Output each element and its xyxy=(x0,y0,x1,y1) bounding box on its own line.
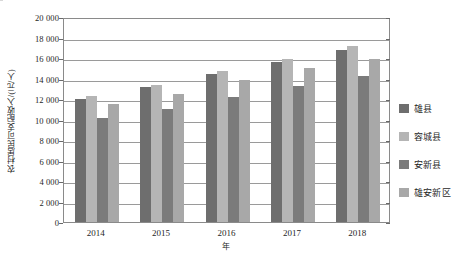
bar xyxy=(293,86,304,222)
bar xyxy=(239,80,250,222)
bar xyxy=(271,62,282,222)
y-tick-mark xyxy=(59,80,63,81)
scan-edge-mark xyxy=(0,0,3,1)
y-tick-mark xyxy=(386,162,390,163)
bar xyxy=(217,71,228,222)
y-tick-mark xyxy=(59,59,63,60)
legend-label: 雄县 xyxy=(414,102,432,115)
y-tick-mark xyxy=(59,141,63,142)
y-tick-mark xyxy=(59,121,63,122)
bar xyxy=(162,109,173,222)
legend-swatch-icon xyxy=(399,132,409,141)
legend-item[interactable]: 安新县 xyxy=(399,150,473,178)
legend-label: 安新县 xyxy=(414,158,442,171)
bar xyxy=(358,76,369,222)
legend-swatch-icon xyxy=(399,104,409,113)
y-tick-mark xyxy=(386,18,390,19)
x-tick-label: 2016 xyxy=(218,228,236,238)
bar xyxy=(369,59,380,222)
bar xyxy=(228,97,239,222)
legend-swatch-icon xyxy=(399,188,409,197)
legend-item[interactable]: 雄县 xyxy=(399,94,473,122)
chart-figure: 农村居民可支配收入/(元/人) 02 0004 0006 0008 00010 … xyxy=(0,0,476,266)
y-tick-mark xyxy=(386,39,390,40)
y-axis-title: 农村居民可支配收入/(元/人) xyxy=(4,18,18,223)
y-tick-label: 4 000 xyxy=(39,177,59,187)
gridline xyxy=(64,40,389,41)
x-tick-label: 2017 xyxy=(283,228,301,238)
legend-swatch-icon xyxy=(399,160,409,169)
y-tick-mark xyxy=(59,39,63,40)
y-tick-label: 10 000 xyxy=(35,116,59,126)
bar xyxy=(97,118,108,222)
y-tick-mark xyxy=(386,59,390,60)
y-tick-label: 14 000 xyxy=(35,75,59,85)
y-tick-mark xyxy=(386,203,390,204)
bar xyxy=(151,85,162,222)
y-tick-mark xyxy=(386,80,390,81)
y-tick-mark xyxy=(386,141,390,142)
y-tick-mark xyxy=(386,100,390,101)
x-tick-label: 2014 xyxy=(87,228,105,238)
bar xyxy=(336,50,347,222)
y-tick-mark xyxy=(59,18,63,19)
legend-label: 容城县 xyxy=(414,130,442,143)
bar xyxy=(282,59,293,222)
bar xyxy=(304,68,315,222)
bar xyxy=(86,96,97,222)
plot-area xyxy=(63,18,390,223)
bar xyxy=(206,74,217,222)
x-tick-label: 2015 xyxy=(152,228,170,238)
y-tick-mark xyxy=(59,100,63,101)
y-tick-label: 18 000 xyxy=(35,34,59,44)
x-tick-label: 2018 xyxy=(348,228,366,238)
y-tick-label: 8 000 xyxy=(39,136,59,146)
legend-item[interactable]: 雄安新区 xyxy=(399,178,473,206)
x-axis-title: 年 xyxy=(222,240,230,251)
y-tick-label: 20 000 xyxy=(35,13,59,23)
legend-label: 雄安新区 xyxy=(414,186,451,199)
y-axis-title-text: 农村居民可支配收入/(元/人) xyxy=(6,69,17,173)
y-tick-mark xyxy=(386,121,390,122)
y-tick-label: 6 000 xyxy=(39,157,59,167)
chart-legend: 雄县容城县安新县雄安新区 xyxy=(399,94,473,206)
y-tick-mark xyxy=(59,182,63,183)
bar xyxy=(140,87,151,222)
y-tick-mark xyxy=(386,182,390,183)
legend-item[interactable]: 容城县 xyxy=(399,122,473,150)
bar xyxy=(347,46,358,222)
y-tick-label: 12 000 xyxy=(35,95,59,105)
y-tick-mark xyxy=(59,203,63,204)
y-tick-label: 2 000 xyxy=(39,198,59,208)
y-tick-mark xyxy=(59,162,63,163)
y-tick-mark xyxy=(59,223,63,224)
bar xyxy=(173,94,184,222)
bar xyxy=(108,104,119,222)
y-tick-label: 16 000 xyxy=(35,54,59,64)
bar xyxy=(75,99,86,222)
y-tick-mark xyxy=(386,223,390,224)
